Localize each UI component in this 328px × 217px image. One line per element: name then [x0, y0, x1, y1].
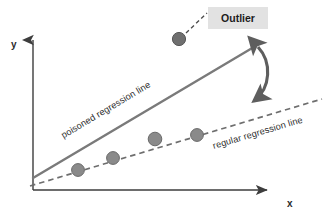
regression-poisoning-diagram: y x poisoned regression line regular reg…	[0, 0, 328, 217]
outlier-leader-line	[186, 13, 207, 33]
data-point	[107, 152, 120, 165]
poisoned-regression-line	[33, 44, 259, 178]
data-point	[191, 129, 204, 142]
data-point	[72, 164, 85, 177]
outlier-point	[172, 32, 185, 45]
outlier-callout-box: Outlier	[208, 7, 268, 29]
displacement-arc-arrow	[254, 47, 268, 101]
data-point	[148, 132, 162, 146]
x-axis-label: x	[287, 199, 293, 209]
diagram-canvas	[0, 0, 328, 217]
outlier-callout-label: Outlier	[221, 12, 255, 24]
y-axis-label: y	[11, 40, 17, 50]
